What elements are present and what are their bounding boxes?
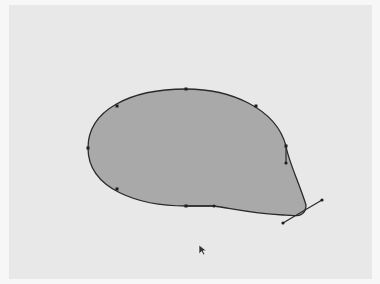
anchor-point-right[interactable] [285,145,288,148]
anchor-point-lower-left[interactable] [116,188,119,191]
handle-point-bottom-right-b[interactable] [320,198,323,201]
handle-point-right[interactable] [284,161,287,164]
anchor-point-top[interactable] [185,88,188,91]
anchor-point-upper-left[interactable] [116,105,119,108]
anchor-point-left[interactable] [87,147,90,150]
handle-point-bottom[interactable] [212,204,215,207]
handle-point-bottom-right-a[interactable] [281,221,284,224]
arrow-pointer-icon [198,244,208,256]
blob-shape-path[interactable] [88,89,306,216]
vector-path-editor[interactable] [0,0,380,284]
anchor-point-bottom[interactable] [185,205,188,208]
anchor-point-upper-right[interactable] [255,105,258,108]
